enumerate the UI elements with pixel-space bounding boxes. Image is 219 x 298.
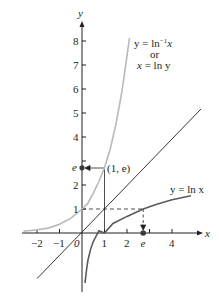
x-tick-label: e xyxy=(141,237,146,249)
inverse-curve-label: y = ln−1x or x = ln y xyxy=(134,37,172,71)
y-tick-label: 4 xyxy=(73,131,79,143)
chart: y x −2 −1 0 1 2 e 4 1 2 e 4 5 6 7 8 (1, … xyxy=(0,0,219,298)
y-tick-label: 6 xyxy=(73,83,79,95)
x-tick-label: 4 xyxy=(169,237,175,249)
inv-label-suffix: = ln y xyxy=(142,59,171,71)
ln-curve-label: y = ln x xyxy=(170,183,205,195)
svg-text:x = ln y: x = ln y xyxy=(136,59,171,71)
arrow-down-icon xyxy=(141,225,146,230)
x-tick-label: 2 xyxy=(124,237,130,249)
y-tick-label: 5 xyxy=(73,107,79,119)
y-tick-label: 1 xyxy=(73,203,79,215)
y-tick-label: 7 xyxy=(73,59,79,71)
point-e-on-x-axis xyxy=(140,230,146,236)
x-axis-arrow-icon xyxy=(197,231,203,236)
point-e-on-y-axis xyxy=(79,165,84,170)
x-tick-label: 0 xyxy=(74,237,80,249)
axes xyxy=(22,21,203,292)
x-tick-label: −2 xyxy=(31,237,43,249)
arrow-left-icon xyxy=(85,166,90,171)
x-axis-label: x xyxy=(204,227,210,239)
point-label-1-e: (1, e) xyxy=(107,162,131,175)
x-tick-label: −1 xyxy=(53,237,65,249)
inv-label-var: x xyxy=(166,37,172,49)
y-axis-arrow-icon xyxy=(80,21,85,27)
y-axis-label: y xyxy=(77,7,83,19)
y-tick-label: 8 xyxy=(73,35,79,47)
y-tick-label: 2 xyxy=(73,179,79,191)
y-tick-label: e xyxy=(72,161,77,173)
x-tick-label: 1 xyxy=(102,237,108,249)
